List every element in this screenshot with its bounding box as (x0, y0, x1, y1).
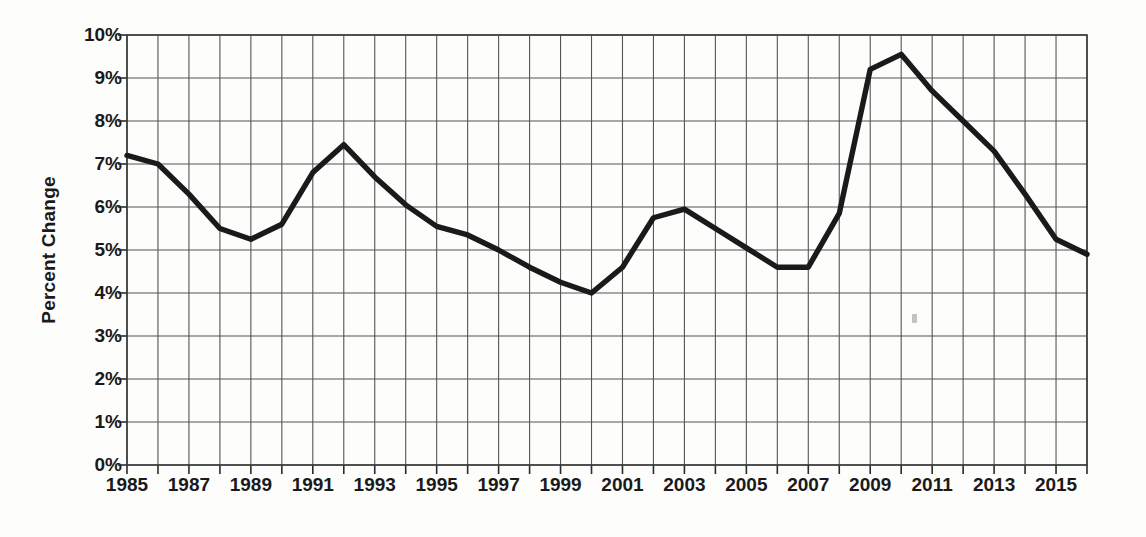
x-axis-ticks (127, 465, 1087, 474)
percent-change-line-chart: Percent Change 0%1%2%3%4%5%6%7%8%9%10% 1… (0, 0, 1146, 537)
data-series-line (127, 54, 1087, 293)
plot-area (0, 0, 1146, 537)
scan-artifact (912, 314, 917, 323)
y-axis-ticks (118, 35, 127, 465)
